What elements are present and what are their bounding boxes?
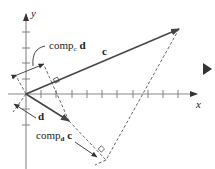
y-axis-label: y [30, 7, 36, 19]
comp-c-d-label: compcd [49, 39, 86, 53]
comp-c-d-leader [33, 46, 45, 66]
comp-d-c-label: compdc [36, 129, 72, 143]
x-axis-label: x [195, 98, 201, 110]
vector-d-label: d [38, 110, 44, 122]
comp-c-d-measure: compcd [17, 39, 86, 75]
right-angle-marker-d [98, 146, 104, 152]
vector-d [26, 94, 69, 121]
comp-c-d-bracket-right [44, 65, 52, 83]
d-line-extension [69, 121, 106, 160]
vector-c-label: c [102, 45, 107, 57]
comp-d-c-bracket-right [95, 160, 106, 165]
next-arrow-icon[interactable] [203, 63, 212, 75]
vector-projection-diagram: x y c d compcd compdc [0, 0, 215, 169]
